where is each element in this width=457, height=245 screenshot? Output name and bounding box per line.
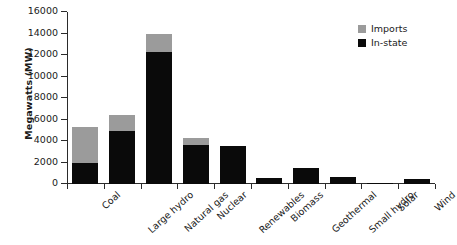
- legend-swatch-in-state: [358, 39, 366, 47]
- bar-group: [367, 183, 393, 184]
- x-axis-tick: [67, 184, 68, 189]
- y-axis-tick: 12000: [61, 54, 67, 55]
- bar-segment-imports: [146, 34, 172, 53]
- y-axis-tick-label: 14000: [28, 26, 58, 40]
- bar-segment-in-state: [256, 178, 282, 184]
- y-axis-title: Megawatts (MW): [23, 19, 34, 169]
- bar-group: [220, 146, 246, 184]
- x-axis-tick: [398, 184, 399, 189]
- y-axis-tick: 4000: [61, 140, 67, 141]
- bar-group: [330, 177, 356, 184]
- bar-group: [183, 138, 209, 184]
- x-axis-tick: [177, 184, 178, 189]
- legend-item-imports: Imports: [358, 22, 407, 35]
- bar-segment-in-state: [367, 183, 393, 184]
- bar-segment-in-state: [404, 179, 430, 184]
- x-axis-label: Wind: [432, 189, 457, 213]
- legend-swatch-imports: [358, 25, 366, 33]
- bar-group: [404, 179, 430, 184]
- bar-group: [72, 127, 98, 184]
- bar-segment-imports: [109, 115, 135, 131]
- bar-segment-imports: [72, 127, 98, 162]
- x-axis-tick: [325, 184, 326, 189]
- y-axis-tick: 14000: [61, 33, 67, 34]
- bar-group: [256, 178, 282, 184]
- bar-segment-in-state: [220, 146, 246, 184]
- x-axis-tick: [104, 184, 105, 189]
- x-axis-label: Coal: [100, 189, 123, 211]
- y-axis-tick-label: 4000: [34, 133, 58, 147]
- bar-group: [146, 34, 172, 185]
- bar-group: [293, 168, 319, 184]
- y-axis-tick-label: 6000: [34, 112, 58, 126]
- bar-segment-in-state: [330, 177, 356, 184]
- bar-segment-in-state: [109, 131, 135, 184]
- x-axis-tick: [214, 184, 215, 189]
- y-axis-tick: 10000: [61, 76, 67, 77]
- bar-segment-in-state: [146, 52, 172, 184]
- x-axis-label: Solar: [395, 189, 420, 213]
- y-axis-line: [67, 12, 68, 184]
- y-axis-tick-label: 16000: [28, 4, 58, 18]
- legend-item-in-state: In-state: [358, 36, 407, 49]
- x-axis-tick: [141, 184, 142, 189]
- bar-segment-in-state: [183, 145, 209, 184]
- y-axis-tick: 6000: [61, 119, 67, 120]
- legend-label-in-state: In-state: [371, 37, 407, 48]
- y-axis-tick-label: 10000: [28, 69, 58, 83]
- y-axis-tick: 8000: [61, 97, 67, 98]
- chart-legend: Imports In-state: [358, 22, 407, 50]
- y-axis-tick-label: 0: [52, 176, 58, 190]
- y-axis-tick-label: 2000: [34, 155, 58, 169]
- x-axis-tick: [361, 184, 362, 189]
- bar-group: [109, 115, 135, 184]
- x-axis-tick: [251, 184, 252, 189]
- y-axis-tick-label: 12000: [28, 47, 58, 61]
- x-axis-tick: [435, 184, 436, 189]
- legend-label-imports: Imports: [371, 23, 407, 34]
- y-axis-tick-label: 8000: [34, 90, 58, 104]
- y-axis-tick: 2000: [61, 162, 67, 163]
- bar-segment-in-state: [72, 163, 98, 185]
- y-axis-tick: 16000: [61, 11, 67, 12]
- x-axis-tick: [288, 184, 289, 189]
- bar-segment-in-state: [293, 168, 319, 184]
- bar-segment-imports: [183, 138, 209, 145]
